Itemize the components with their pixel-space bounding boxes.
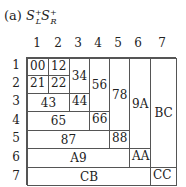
cell-56: 56: [89, 58, 110, 112]
figure-caption: (a) S+LS+R: [4, 8, 57, 26]
column-label-3: 3: [68, 36, 88, 50]
cell-34: 34: [69, 58, 90, 94]
cell-43: 43: [27, 93, 70, 112]
cell-aa: AA: [129, 148, 151, 168]
row-label-3: 3: [10, 94, 22, 108]
cell-12: 12: [48, 58, 70, 76]
column-label-1: 1: [27, 36, 47, 50]
cell-87: 87: [27, 130, 110, 149]
cell-21: 21: [27, 75, 49, 94]
column-label-2: 2: [48, 36, 68, 50]
row-label-5: 5: [10, 131, 22, 145]
cell-65: 65: [27, 111, 90, 131]
caption-prefix: (a): [4, 8, 22, 23]
cell-44: 44: [69, 93, 90, 112]
caption-symbol-sl: S+L: [26, 8, 41, 23]
column-label-7: 7: [152, 36, 172, 50]
cell-66: 66: [89, 111, 110, 131]
cell-9a: 9A: [129, 58, 151, 149]
cell-cb: CB: [27, 167, 151, 186]
caption-symbol-sr: S+R: [41, 8, 57, 23]
column-label-6: 6: [128, 36, 148, 50]
cell-22: 22: [48, 75, 70, 94]
row-label-4: 4: [10, 113, 22, 127]
cell-00: 00: [27, 58, 49, 76]
cell-bc: BC: [150, 58, 177, 168]
cell-a9: A9: [27, 148, 130, 168]
column-label-5: 5: [108, 36, 128, 50]
row-label-6: 6: [10, 150, 22, 164]
row-label-7: 7: [10, 169, 22, 183]
row-label-1: 1: [10, 58, 22, 72]
cell-cc: CC: [150, 167, 177, 186]
column-label-4: 4: [88, 36, 108, 50]
block-grid: 00 12 34 56 78 9A BC 21 22 43 44 65 66 8…: [26, 57, 176, 185]
cell-78: 78: [109, 58, 130, 131]
row-label-2: 2: [10, 76, 22, 90]
cell-88: 88: [109, 130, 130, 149]
